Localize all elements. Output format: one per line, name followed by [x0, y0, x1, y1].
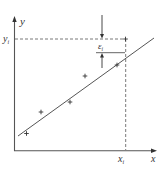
axes — [12, 16, 157, 153]
arrow-up-icon — [100, 53, 104, 58]
x-i-label: xi — [117, 153, 124, 165]
y-axis-arrow-icon — [12, 16, 16, 22]
plus-marker-icon — [39, 110, 44, 115]
y-axis-label: y — [19, 15, 25, 27]
arrow-down-icon — [100, 34, 104, 39]
regression-diagram: y yi εi xi x — [0, 0, 168, 176]
plus-marker-icon — [24, 131, 29, 136]
regression-line — [18, 38, 154, 136]
plus-marker-icon — [123, 37, 128, 42]
guide-lines — [15, 39, 126, 150]
y-i-label: yi — [2, 33, 9, 45]
epsilon-label: εi — [98, 41, 104, 52]
plus-marker-icon — [83, 74, 88, 79]
plus-marker-icon — [68, 100, 73, 105]
x-axis-label: x — [150, 153, 156, 164]
